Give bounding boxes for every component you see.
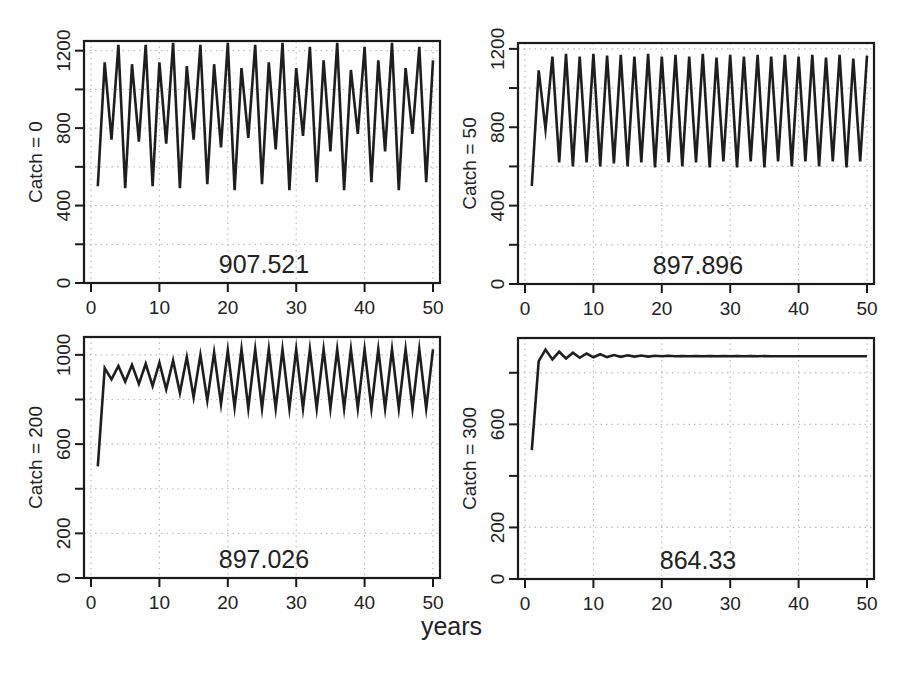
panel-bottom-left: 0102030405002006001000Catch = 200897.026 [25, 334, 444, 613]
y-axis-label: Catch = 200 [25, 406, 46, 509]
x-axis: 01020304050 [520, 284, 878, 319]
y-tick-label: 0 [487, 574, 508, 585]
grid [518, 338, 874, 579]
y-tick-label: 1200 [53, 30, 74, 72]
x-axis: 01020304050 [86, 283, 444, 318]
x-tick-label: 0 [520, 593, 531, 614]
series-line [532, 54, 867, 186]
x-tick-label: 40 [354, 297, 375, 318]
panel-bottom-right: 010203040500200600Catch = 300864.33 [459, 338, 878, 614]
grid [518, 43, 874, 284]
x-axis: 01020304050 [86, 578, 444, 613]
x-tick-label: 20 [651, 298, 672, 319]
panel-top-left: 0102030405004008001200Catch = 0907.521 [25, 30, 444, 318]
y-tick-label: 200 [53, 518, 74, 550]
panel-annotation: 864.33 [660, 546, 736, 574]
y-tick-label: 600 [53, 428, 74, 460]
x-tick-label: 50 [422, 592, 443, 613]
y-axis: 04008001200 [53, 30, 84, 289]
x-tick-label: 30 [286, 592, 307, 613]
figure: 0102030405004008001200Catch = 0907.52101… [0, 0, 903, 676]
x-tick-label: 50 [422, 297, 443, 318]
x-tick-label: 40 [354, 592, 375, 613]
y-axis-label: Catch = 300 [459, 407, 480, 510]
grid [84, 337, 440, 578]
plot-frame [518, 338, 874, 579]
x-tick-label: 20 [217, 297, 238, 318]
y-tick-label: 800 [487, 111, 508, 143]
y-axis: 02006001000 [53, 334, 84, 584]
y-tick-label: 0 [53, 278, 74, 289]
y-axis: 04008001200 [487, 28, 518, 290]
panel-annotation: 897.896 [653, 251, 743, 279]
series-line [98, 43, 433, 190]
y-tick-label: 400 [53, 190, 74, 222]
x-tick-label: 0 [86, 592, 97, 613]
x-tick-label: 30 [720, 593, 741, 614]
y-axis: 0200600 [487, 373, 518, 584]
x-tick-label: 30 [720, 298, 741, 319]
x-tick-label: 40 [788, 298, 809, 319]
series-line [98, 349, 433, 466]
x-tick-label: 10 [149, 297, 170, 318]
plot-frame [518, 43, 874, 284]
x-tick-label: 50 [856, 298, 877, 319]
y-tick-label: 1000 [53, 334, 74, 376]
y-tick-label: 1200 [487, 28, 508, 70]
panel-annotation: 907.521 [219, 250, 309, 278]
y-axis-label: Catch = 0 [25, 121, 46, 203]
x-tick-label: 0 [520, 298, 531, 319]
x-tick-label: 10 [149, 592, 170, 613]
x-axis-label: years [0, 612, 903, 641]
y-axis-label: Catch = 50 [459, 117, 480, 209]
x-tick-label: 10 [583, 593, 604, 614]
x-tick-label: 50 [856, 593, 877, 614]
plot-frame [84, 337, 440, 578]
x-tick-label: 20 [217, 592, 238, 613]
x-tick-label: 30 [286, 297, 307, 318]
panel-top-right: 0102030405004008001200Catch = 50897.896 [459, 28, 878, 319]
series-line [532, 350, 867, 451]
y-tick-label: 0 [53, 573, 74, 584]
x-tick-label: 0 [86, 297, 97, 318]
plots-canvas: 0102030405004008001200Catch = 0907.52101… [0, 0, 903, 676]
y-tick-label: 200 [487, 512, 508, 544]
y-tick-label: 800 [53, 112, 74, 144]
y-tick-label: 0 [487, 279, 508, 290]
panel-annotation: 897.026 [219, 545, 309, 573]
y-tick-label: 400 [487, 190, 508, 222]
x-tick-label: 20 [651, 593, 672, 614]
y-tick-label: 600 [487, 408, 508, 440]
x-tick-label: 10 [583, 298, 604, 319]
x-tick-label: 40 [788, 593, 809, 614]
x-axis: 01020304050 [520, 579, 878, 614]
